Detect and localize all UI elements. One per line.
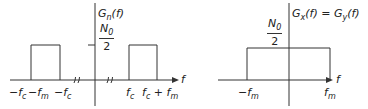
tick-fm-right: fm bbox=[324, 87, 336, 101]
left-graph-title: Gn(f) bbox=[98, 8, 124, 22]
left-negative-band bbox=[31, 45, 60, 80]
tick-neg-fc: −fc bbox=[54, 87, 72, 101]
tick-neg-fc-fm: −fc bbox=[9, 87, 27, 101]
left-positive-band bbox=[129, 45, 157, 80]
tick-fc-plus-fm: fc + fm bbox=[142, 87, 178, 101]
left-level-label: N0 2 bbox=[99, 23, 114, 52]
left-axis-label: f bbox=[181, 74, 185, 85]
tick-fc: fc bbox=[126, 87, 134, 101]
left-axis-arrow-icon bbox=[172, 77, 179, 83]
right-level-label: N0 2 bbox=[267, 18, 282, 47]
right-graph-title: Gx(f) = Gy(f) bbox=[292, 8, 360, 22]
tick-neg-fm-right: −fm bbox=[238, 87, 259, 101]
tick-neg-fm: −fm bbox=[28, 87, 49, 101]
right-axis-label: f bbox=[336, 74, 340, 85]
